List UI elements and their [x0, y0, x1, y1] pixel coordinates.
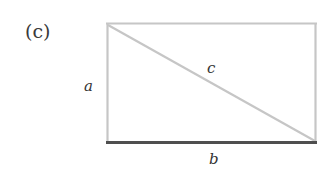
label-b: b [209, 152, 219, 167]
rectangle-diagram [0, 0, 331, 183]
figure-canvas: (c) a c b [0, 0, 331, 183]
diagonal-c [108, 25, 315, 141]
label-a: a [84, 79, 93, 94]
label-c: c [207, 61, 215, 76]
